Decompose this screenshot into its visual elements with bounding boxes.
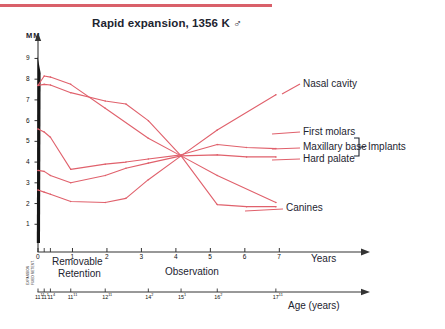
data-point: [148, 120, 150, 122]
data-point: [217, 129, 219, 131]
data-point: [180, 155, 182, 157]
years-tick-label: 5: [208, 253, 212, 260]
series-label-maxillary-base: Maxillary base: [303, 141, 367, 152]
data-point: [50, 136, 52, 138]
data-point: [148, 137, 150, 139]
legend-connector-hard-palate: [272, 159, 300, 160]
data-point: [37, 170, 39, 172]
data-point: [104, 100, 106, 102]
years-tick-label: 7: [277, 253, 281, 260]
data-point: [275, 202, 277, 204]
data-point: [37, 85, 39, 87]
series-label-hard-palate: Hard palate: [303, 153, 355, 164]
phase-label-removable: Removable: [52, 256, 103, 267]
age-axis-title: Age (years): [288, 300, 340, 311]
data-point: [37, 128, 39, 130]
years-axis-title: Years: [311, 253, 336, 264]
y-tick-label: 5: [26, 137, 30, 144]
y-tick-label: 9: [26, 54, 30, 61]
legend-connector-nasal-cavity: [282, 84, 300, 94]
years-axis-arrow: [361, 249, 370, 256]
data-point: [70, 169, 72, 171]
data-point: [43, 131, 45, 133]
data-point: [246, 147, 248, 149]
data-point: [275, 156, 277, 158]
data-point: [217, 154, 219, 156]
data-point: [148, 179, 150, 181]
y-tick-label: 1: [26, 220, 30, 227]
data-point: [217, 175, 219, 177]
data-point: [217, 204, 219, 206]
data-point: [50, 84, 52, 86]
data-point: [275, 206, 277, 208]
legend-connector-first-molars: [272, 132, 300, 134]
data-point: [43, 84, 45, 86]
data-point: [148, 162, 150, 164]
years-tick-label: 2: [105, 253, 109, 260]
series-line-canines: [38, 156, 276, 207]
phase-label-fixed-retention: FIXED RETENT.: [31, 260, 35, 285]
age-tick-label: 151: [178, 293, 186, 300]
data-point: [50, 76, 52, 78]
series-line-maxillary-base: [38, 129, 276, 169]
data-point: [43, 75, 45, 77]
data-point: [125, 161, 127, 163]
data-point: [37, 189, 39, 191]
age-tick-label: 162: [214, 293, 222, 300]
data-point: [104, 175, 106, 177]
phase-label-observation: Observation: [165, 266, 219, 277]
data-point: [125, 168, 127, 170]
age-axis-arrow: [361, 289, 370, 295]
data-point: [104, 107, 106, 109]
chart-canvas: [0, 0, 445, 329]
phase-label-retention: Retention: [58, 268, 101, 279]
implants-bracket-label: Implants: [368, 141, 406, 152]
age-tick-label: 1711: [273, 293, 283, 300]
age-tick-label: 142: [145, 293, 153, 300]
data-point: [275, 94, 277, 96]
y-tick-label: 2: [26, 200, 30, 207]
chart-page: Rapid expansion, 1356 K ♂ MM 98765432101…: [0, 0, 445, 329]
data-point: [125, 198, 127, 200]
data-point: [148, 158, 150, 160]
y-tick-label: 7: [26, 96, 30, 103]
series-label-nasal-cavity: Nasal cavity: [303, 78, 357, 89]
series-line-nasal-cavity: [38, 76, 276, 156]
series-label-canines: Canines: [286, 202, 323, 213]
y-tick-label: 8: [26, 75, 30, 82]
age-tick-label: 1111: [68, 293, 78, 300]
data-point: [70, 92, 72, 94]
years-tick-label: 4: [174, 253, 178, 260]
y-axis-arrow: [35, 33, 41, 41]
data-point: [125, 103, 127, 105]
data-point: [104, 163, 106, 165]
age-tick-label: 1211: [102, 293, 112, 300]
years-tick-label: 0: [36, 253, 40, 260]
data-point: [70, 84, 72, 86]
legend-connector-canines: [245, 209, 283, 211]
data-point: [217, 144, 219, 146]
data-point: [50, 193, 52, 195]
y-tick-label: 6: [26, 117, 30, 124]
data-point: [43, 191, 45, 193]
data-point: [246, 206, 248, 208]
years-tick-label: 3: [139, 253, 143, 260]
data-point: [43, 171, 45, 173]
data-point: [104, 202, 106, 204]
y-tick-label: 3: [26, 179, 30, 186]
phase-label-expansion: EXPANSION: [26, 266, 30, 285]
data-point: [70, 182, 72, 184]
y-tick-label: 4: [26, 158, 30, 165]
age-tick-label: 114: [47, 293, 55, 300]
series-label-first-molars: First molars: [303, 126, 355, 137]
years-tick-label: 6: [243, 253, 247, 260]
data-point: [50, 175, 52, 177]
data-point: [246, 156, 248, 158]
data-point: [70, 201, 72, 203]
